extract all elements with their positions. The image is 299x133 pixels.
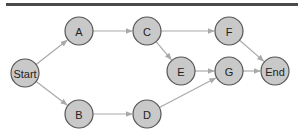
nodes-layer: StartABCDEFGEnd (11, 17, 289, 128)
node-label: F (226, 26, 233, 38)
node-c: C (133, 17, 161, 45)
node-label: B (75, 109, 82, 121)
node-label: A (75, 26, 83, 38)
edge-f-to-end (240, 40, 264, 61)
edge-start-to-b (36, 81, 67, 104)
node-label: G (225, 66, 234, 78)
node-label: Start (13, 68, 36, 80)
node-a: A (65, 17, 93, 45)
flow-diagram: StartABCDEFGEnd (0, 0, 299, 133)
node-g: G (215, 57, 243, 85)
edge-start-to-a (36, 40, 67, 64)
node-d: D (133, 100, 161, 128)
node-end: End (261, 57, 289, 85)
node-label: E (177, 66, 184, 78)
node-e: E (167, 57, 195, 85)
node-label: C (143, 26, 151, 38)
node-label: D (143, 109, 151, 121)
node-f: F (215, 17, 243, 45)
node-label: End (265, 66, 285, 78)
edge-c-to-e (156, 42, 171, 60)
node-b: B (65, 100, 93, 128)
node-start: Start (11, 59, 39, 87)
